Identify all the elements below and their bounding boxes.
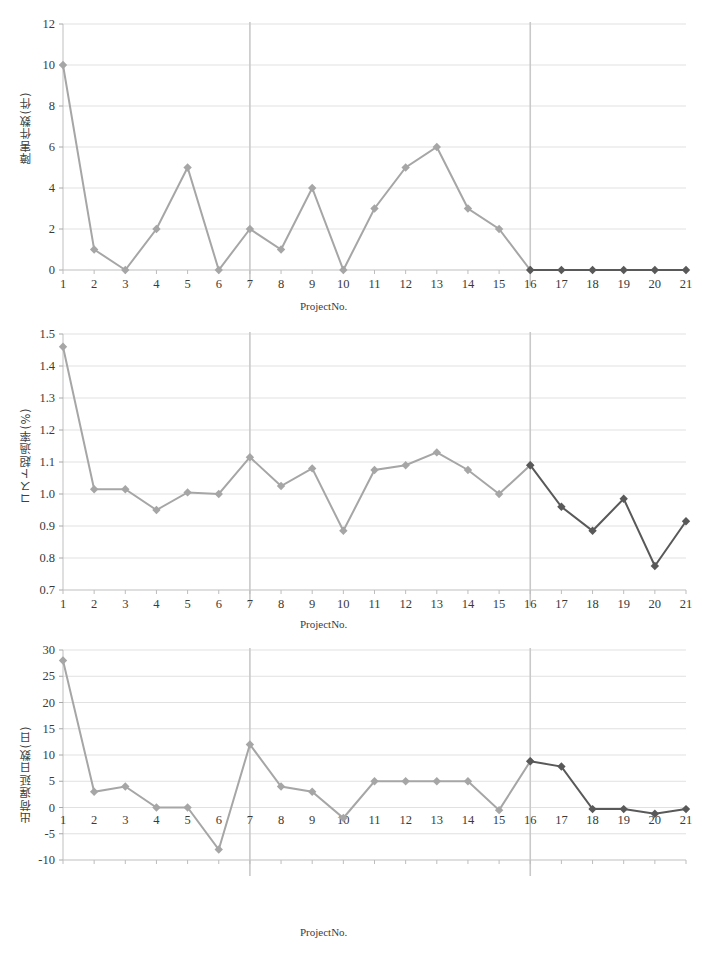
x-tick-label: 7: [247, 597, 253, 611]
x-tick-label: 21: [680, 597, 693, 611]
x-tick-label: 3: [122, 813, 128, 827]
chart3-x-axis-title: ProjectNo.: [300, 926, 347, 938]
x-tick-label: 5: [184, 597, 190, 611]
series-line: [63, 65, 530, 270]
x-tick-label: 1: [60, 813, 66, 827]
x-tick-label: 3: [122, 597, 128, 611]
data-point-marker: [620, 266, 628, 274]
x-tick-label: 17: [555, 597, 568, 611]
x-tick-label: 6: [216, 597, 222, 611]
y-tick-label: 30: [43, 643, 56, 657]
chart1-y-axis-label: 障害件数(件): [18, 92, 34, 164]
x-tick-label: 20: [649, 277, 662, 291]
data-point-marker: [59, 343, 67, 351]
x-tick-label: 16: [524, 813, 537, 827]
x-tick-label: 4: [153, 813, 160, 827]
y-tick-label: 1.4: [39, 359, 55, 373]
x-tick-label: 6: [216, 813, 222, 827]
x-tick-label: 14: [462, 813, 475, 827]
x-tick-label: 12: [399, 277, 412, 291]
x-tick-label: 9: [309, 597, 315, 611]
x-tick-label: 13: [431, 813, 444, 827]
x-tick-label: 11: [368, 597, 380, 611]
x-tick-label: 5: [184, 813, 190, 827]
x-tick-label: 14: [462, 277, 475, 291]
bottom-caption: [60, 958, 620, 964]
data-point-marker: [339, 527, 347, 535]
data-point-marker: [433, 777, 441, 785]
x-tick-label: 1: [60, 277, 66, 291]
data-point-marker: [433, 448, 441, 456]
series-line: [530, 761, 686, 814]
y-tick-label: 6: [49, 140, 55, 154]
x-tick-label: 15: [493, 277, 506, 291]
data-point-marker: [183, 488, 191, 496]
data-point-marker: [59, 61, 67, 69]
chart3-y-axis-label: 出荷遅延日数(日): [18, 726, 34, 823]
x-tick-label: 12: [399, 813, 412, 827]
x-tick-label: 4: [153, 277, 160, 291]
y-tick-label: 0: [49, 263, 55, 277]
y-tick-label: 2: [49, 222, 55, 236]
y-tick-label: 10: [43, 58, 56, 72]
x-tick-label: 19: [617, 813, 630, 827]
x-tick-label: 8: [278, 813, 284, 827]
x-tick-label: 18: [586, 597, 599, 611]
y-tick-label: -5: [45, 827, 55, 841]
x-tick-label: 10: [337, 597, 350, 611]
x-tick-label: 7: [247, 813, 253, 827]
chart2-y-axis-label: コスト超過率(%): [18, 408, 34, 504]
data-point-marker: [59, 656, 67, 664]
data-point-marker: [588, 266, 596, 274]
y-tick-label: 8: [49, 99, 55, 113]
x-tick-label: 11: [368, 813, 380, 827]
y-tick-label: 1.3: [39, 391, 55, 405]
y-tick-label: 15: [43, 722, 56, 736]
y-tick-label: 10: [43, 748, 56, 762]
y-tick-label: 20: [43, 696, 56, 710]
y-tick-label: 0: [49, 801, 55, 815]
chart-cost-overrun-svg: 0.70.80.91.01.11.21.31.41.51234567891011…: [0, 318, 702, 636]
y-tick-label: 5: [49, 774, 55, 788]
chart-defect-count: 0246810121234567891011121314151617181920…: [0, 0, 702, 318]
chart1-x-axis-title: ProjectNo.: [300, 300, 347, 312]
x-tick-label: 20: [649, 597, 662, 611]
chart-shipping-delay-svg: -10-505101520253012345678910111213141516…: [0, 636, 702, 926]
x-tick-label: 18: [586, 813, 599, 827]
y-tick-label: 1.0: [39, 487, 55, 501]
x-tick-label: 15: [493, 813, 506, 827]
y-tick-label: 0.8: [39, 551, 55, 565]
x-tick-label: 21: [680, 277, 693, 291]
x-tick-label: 16: [524, 597, 537, 611]
x-tick-label: 13: [431, 277, 444, 291]
data-point-marker: [682, 266, 690, 274]
data-point-marker: [651, 266, 659, 274]
data-point-marker: [370, 466, 378, 474]
x-tick-label: 6: [216, 277, 222, 291]
x-tick-label: 2: [91, 277, 97, 291]
x-tick-label: 2: [91, 813, 97, 827]
x-tick-label: 19: [617, 597, 630, 611]
x-tick-label: 17: [555, 813, 568, 827]
x-tick-label: 10: [337, 277, 350, 291]
chart-shipping-delay: -10-505101520253012345678910111213141516…: [0, 636, 702, 926]
y-tick-label: 1.1: [39, 455, 55, 469]
data-point-marker: [339, 266, 347, 274]
x-tick-label: 19: [617, 277, 630, 291]
y-tick-label: 0.7: [39, 583, 55, 597]
x-tick-label: 5: [184, 277, 190, 291]
series-line: [63, 347, 530, 531]
x-tick-label: 14: [462, 597, 475, 611]
data-point-marker: [557, 266, 565, 274]
x-tick-label: 17: [555, 277, 568, 291]
y-tick-label: -10: [38, 853, 55, 867]
y-tick-label: 12: [43, 17, 56, 31]
x-tick-label: 3: [122, 277, 128, 291]
x-tick-label: 9: [309, 277, 315, 291]
y-tick-label: 1.2: [39, 423, 55, 437]
data-point-marker: [401, 777, 409, 785]
x-tick-label: 1: [60, 597, 66, 611]
data-point-marker: [308, 464, 316, 472]
x-tick-label: 15: [493, 597, 506, 611]
chart-cost-overrun: 0.70.80.91.01.11.21.31.41.51234567891011…: [0, 318, 702, 636]
